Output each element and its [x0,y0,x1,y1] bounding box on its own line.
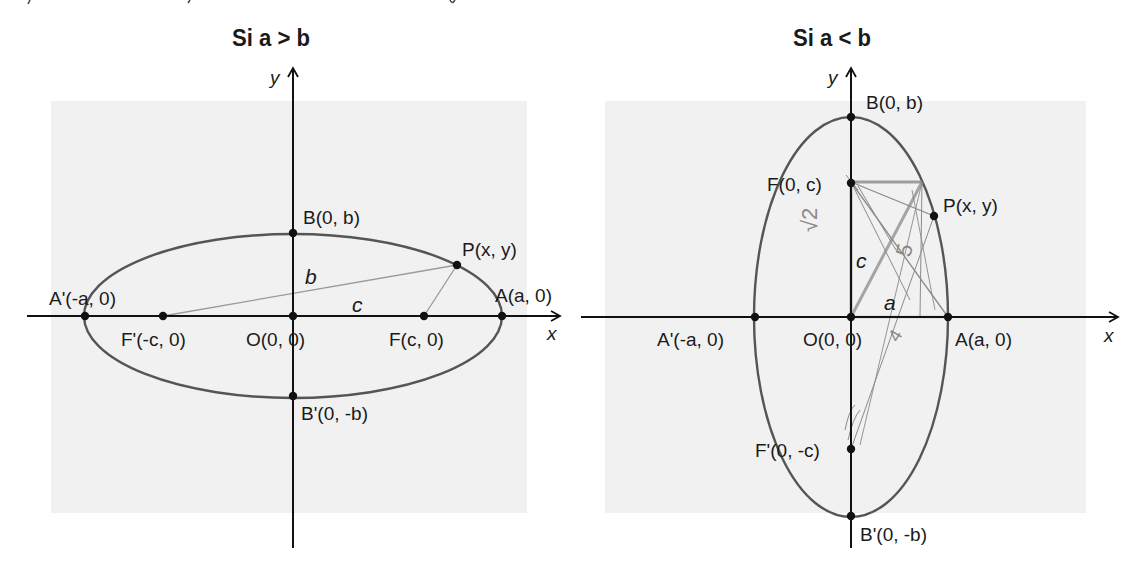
label-p: P(x, y) [943,195,998,216]
label-f: F(c, 0) [389,329,444,350]
segment-label-b: b [305,265,317,288]
ellipse-diagrams: y x A'(-a, 0) F'(-c, 0) O(0, 0) F(c, 0) … [0,0,1141,574]
y-axis-label: y [826,67,839,88]
point-origin [289,312,297,320]
point-origin [847,313,855,321]
segment-label-c: c [856,249,867,272]
point-b [289,229,297,237]
label-b: B(0, b) [303,207,360,228]
point-p [453,261,461,269]
point-a [498,312,506,320]
handwritten-sqrt2: √2 [797,208,822,232]
point-b-prime [847,512,855,520]
point-f [420,312,428,320]
label-a: A(a, 0) [955,329,1012,350]
label-f-prime: F'(0, -c) [755,440,820,461]
panel-left-background [51,101,527,513]
point-a-prime [751,313,759,321]
label-a-prime: A'(-a, 0) [657,329,724,350]
panel-right-background [605,101,1086,513]
label-f-prime: F'(-c, 0) [121,329,186,350]
label-b-prime: B'(0, -b) [860,524,927,545]
clipped-text-fragments [28,0,455,4]
x-axis-label: x [1103,325,1115,346]
x-axis-label: x [546,323,558,344]
panel-right: √2 5 4 y x A'(-a, 0) O(0, 0) A(a, 0) B(0… [581,67,1118,548]
point-f [847,179,855,187]
label-origin: O(0, 0) [803,329,862,350]
label-a: A(a, 0) [495,285,552,306]
label-b-prime: B'(0, -b) [301,403,368,424]
point-a-prime [81,312,89,320]
point-b-prime [289,392,297,400]
point-b [847,113,855,121]
point-f-prime [847,445,855,453]
segment-label-a: a [884,291,896,314]
label-origin: O(0, 0) [246,329,305,350]
y-axis-label: y [268,67,281,88]
label-f: F(0, c) [767,174,822,195]
point-f-prime [159,312,167,320]
point-a [944,313,952,321]
panel-left: y x A'(-a, 0) F'(-c, 0) O(0, 0) F(c, 0) … [27,67,560,548]
label-p: P(x, y) [462,239,517,260]
point-p [930,212,938,220]
segment-label-c: c [352,293,363,316]
label-a-prime: A'(-a, 0) [49,288,116,309]
label-b: B(0, b) [866,92,923,113]
